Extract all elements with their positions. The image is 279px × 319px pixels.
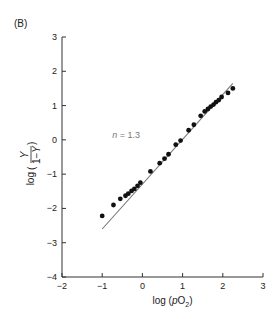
y-tick-label: 1 xyxy=(52,101,57,111)
y-axis-title-numerator: Y xyxy=(19,150,30,158)
axes: −4−3−2−10123−2−10123 xyxy=(47,32,266,291)
data-point xyxy=(219,95,224,100)
data-point xyxy=(162,156,167,161)
y-tick-label: 0 xyxy=(52,135,57,145)
data-point xyxy=(118,196,123,201)
y-axis-title-paren-left: ( xyxy=(26,166,37,170)
data-point xyxy=(100,214,105,219)
data-point xyxy=(178,138,183,143)
y-tick-label: −1 xyxy=(47,169,57,179)
data-point xyxy=(157,161,162,166)
y-axis-title-denominator: 1−Y xyxy=(31,145,42,164)
y-axis-title-paren-right: ) xyxy=(26,142,37,145)
data-point xyxy=(226,90,231,95)
x-tick-label: −2 xyxy=(57,281,67,291)
data-point xyxy=(198,113,203,118)
hill-plot: −4−3−2−10123−2−10123 n = 1.3log (pO2)log… xyxy=(0,0,279,319)
data-point xyxy=(186,128,191,133)
y-tick-label: −2 xyxy=(47,203,57,213)
x-tick-label: 1 xyxy=(180,281,185,291)
x-tick-label: 3 xyxy=(260,281,265,291)
y-axis-title-log: log xyxy=(25,172,36,185)
x-tick-label: 0 xyxy=(140,281,145,291)
data-point xyxy=(111,203,116,208)
y-axis-title: log(Y1−Y) xyxy=(19,142,42,186)
x-axis-title: log (pO2) xyxy=(152,295,192,308)
data-point xyxy=(166,152,171,157)
data-point xyxy=(173,142,178,147)
y-tick-label: −3 xyxy=(47,238,57,248)
y-tick-label: −4 xyxy=(47,272,57,282)
y-tick-label: 2 xyxy=(52,66,57,76)
fit-annotation: n = 1.3 xyxy=(112,130,140,140)
data-points xyxy=(100,86,235,218)
x-tick-label: 2 xyxy=(220,281,225,291)
data-point xyxy=(148,169,153,174)
data-point xyxy=(138,180,143,185)
data-point xyxy=(230,86,235,91)
x-tick-label: −1 xyxy=(97,281,107,291)
data-point xyxy=(191,122,196,127)
y-tick-label: 3 xyxy=(52,32,57,42)
